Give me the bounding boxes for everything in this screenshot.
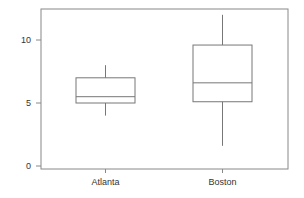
- y-tick-label: 5: [26, 98, 31, 108]
- x-axis: AtlantaBoston: [91, 169, 236, 187]
- iqr-box: [76, 78, 135, 103]
- plot-frame: [41, 9, 288, 169]
- boxes: [76, 15, 252, 146]
- box-plot: 0510 AtlantaBoston: [0, 0, 304, 198]
- y-tick-label: 0: [26, 161, 31, 171]
- iqr-box: [193, 45, 252, 102]
- x-category-label: Atlanta: [91, 177, 119, 187]
- box-atlanta: [76, 65, 135, 115]
- box-boston: [193, 15, 252, 146]
- y-axis: 0510: [21, 35, 41, 171]
- y-tick-label: 10: [21, 35, 31, 45]
- x-category-label: Boston: [208, 177, 236, 187]
